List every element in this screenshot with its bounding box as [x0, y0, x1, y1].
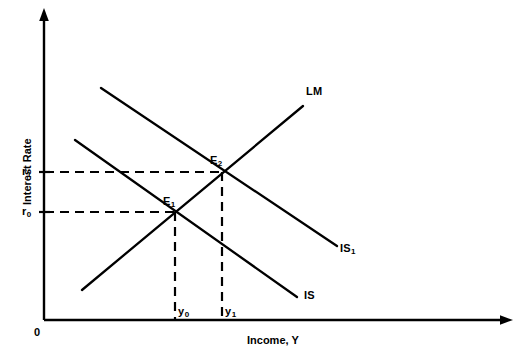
- x-tick-label-y0-sub: 0: [185, 310, 190, 319]
- x-tick-label-y1: y1: [225, 306, 236, 317]
- is1-curve-label-base: IS: [340, 242, 351, 254]
- origin-label: 0: [34, 327, 40, 338]
- axes-group: [39, 8, 513, 325]
- diagram-canvas: [0, 0, 524, 361]
- is1-curve-label: IS1: [340, 243, 355, 254]
- y-tick-label-r0-sub: 0: [27, 210, 32, 219]
- x-tick-label-y0: y0: [178, 306, 189, 317]
- equilibrium-e1-base: E: [163, 195, 171, 207]
- equilibrium-e2-label: E2: [210, 155, 222, 166]
- x-tick-label-y1-sub: 1: [232, 310, 237, 319]
- y-tick-label-r1: r1: [22, 166, 31, 177]
- x-axis-arrowhead: [500, 315, 513, 325]
- is-curve: [75, 140, 297, 297]
- y-tick-label-r1-sub: 1: [27, 170, 32, 179]
- equilibrium-e1-label: E1: [163, 196, 175, 207]
- x-tick-label-y1-base: y: [225, 305, 231, 317]
- equilibrium-e2-base: E: [210, 154, 218, 166]
- y-tick-label-r0-base: r: [22, 205, 26, 217]
- is1-curve-label-sub: 1: [351, 247, 356, 256]
- x-axis-title: Income, Y: [247, 335, 299, 346]
- lm-curve: [82, 106, 303, 290]
- equilibrium-e2-sub: 2: [218, 159, 223, 168]
- is-curve-label: IS: [304, 290, 315, 301]
- y-tick-label-r0: r0: [22, 206, 31, 217]
- y-axis-arrowhead: [39, 8, 49, 21]
- x-tick-label-y0-base: y: [178, 305, 184, 317]
- equilibrium-e1-sub: 1: [171, 200, 176, 209]
- y-tick-label-r1-base: r: [22, 165, 26, 177]
- lm-curve-label: LM: [306, 86, 322, 97]
- curves-group: [75, 88, 337, 297]
- is-lm-diagram: Interest Rate Income, Y 0 LM IS IS1 E1 E…: [0, 0, 524, 361]
